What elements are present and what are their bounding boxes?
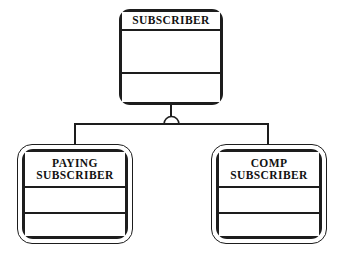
entity-inner-frame: COMP SUBSCRIBER bbox=[216, 149, 322, 239]
entity-title-subscriber: SUBSCRIBER bbox=[122, 12, 220, 31]
entity-box-comp-subscriber[interactable]: COMP SUBSCRIBER bbox=[211, 144, 327, 244]
entity-title-line-2: SUBSCRIBER bbox=[230, 169, 308, 181]
entity-methods-compartment-paying-subscriber bbox=[25, 214, 125, 236]
entity-title-line-1: COMP bbox=[230, 157, 308, 169]
entity-title-line-1: PAYING bbox=[36, 157, 114, 169]
entity-box-subscriber[interactable]: SUBSCRIBER bbox=[119, 9, 223, 105]
entity-inner-frame: PAYING SUBSCRIBER bbox=[22, 149, 128, 239]
entity-attributes-compartment-comp-subscriber bbox=[219, 188, 319, 214]
entity-box-paying-subscriber[interactable]: PAYING SUBSCRIBER bbox=[17, 144, 133, 244]
connector-horizontal-branch bbox=[74, 123, 269, 125]
entity-attributes-compartment-paying-subscriber bbox=[25, 188, 125, 214]
entity-title-comp-subscriber: COMP SUBSCRIBER bbox=[219, 152, 319, 188]
erd-diagram-canvas: SUBSCRIBER PAYING SUBSCRIBER bbox=[0, 0, 342, 259]
entity-body: SUBSCRIBER bbox=[122, 12, 220, 102]
entity-title-paying-subscriber: PAYING SUBSCRIBER bbox=[25, 152, 125, 188]
entity-methods-compartment-subscriber bbox=[122, 74, 220, 102]
entity-title-line-2: SUBSCRIBER bbox=[36, 169, 114, 181]
entity-attributes-compartment-subscriber bbox=[122, 31, 220, 74]
entity-methods-compartment-comp-subscriber bbox=[219, 214, 319, 236]
